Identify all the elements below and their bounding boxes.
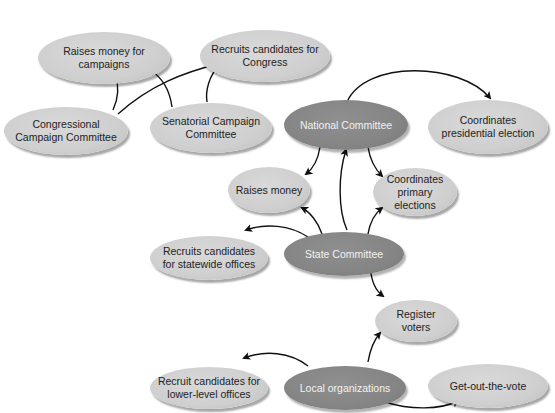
edge-local-to-lower-level — [244, 353, 308, 366]
edge-national-to-raises-money — [306, 147, 320, 174]
node-national-committee: National Committee — [284, 100, 408, 150]
edge-local-to-register — [368, 333, 380, 362]
edge-state-to-statewide — [246, 226, 308, 237]
edge-state-to-raises-money — [302, 208, 322, 234]
edge-state-to-national — [340, 150, 347, 230]
node-get-out-the-vote: Get-out-the-vote — [428, 364, 548, 408]
node-register-voters: Register voters — [375, 300, 457, 342]
node-recruits-candidates-statewide: Recruits candidates for statewide office… — [150, 236, 268, 280]
node-coordinates-presidential-election: Coordinates presidential election — [428, 100, 548, 154]
node-congressional-campaign-committee: Congressional Campaign Committee — [4, 107, 128, 155]
edge-state-to-primary — [368, 208, 382, 234]
node-senatorial-campaign-committee: Senatorial Campaign Committee — [150, 103, 272, 153]
node-coordinates-primary-elections: Coordinates primary elections — [373, 168, 457, 216]
node-raises-money: Raises money — [228, 167, 310, 213]
node-local-organizations: Local organizations — [284, 366, 406, 410]
edge-national-to-presidential — [347, 71, 490, 102]
node-recruits-candidates-for-congress: Recruits candidates for Congress — [200, 30, 330, 82]
node-raises-money-for-campaigns: Raises money for campaigns — [38, 32, 170, 84]
party-organization-diagram: Raises money for campaigns Recruits cand… — [0, 0, 555, 413]
node-state-committee: State Committee — [284, 232, 404, 276]
node-recruit-candidates-lower-level: Recruit candidates for lower-level offic… — [150, 367, 268, 409]
